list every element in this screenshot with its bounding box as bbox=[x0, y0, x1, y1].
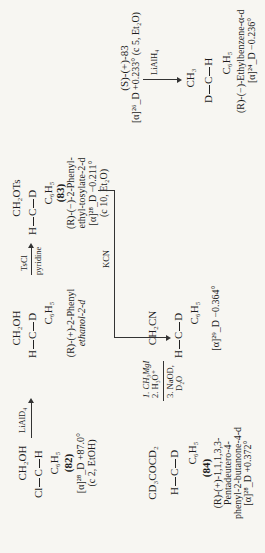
reagent-tscl: TsCl bbox=[20, 255, 29, 271]
c82-rotation: [α]²⁸_D +87.0° bbox=[75, 418, 86, 508]
nitrile-center-row: HCD bbox=[172, 313, 184, 358]
eb-bottom-group: C₆H₅ bbox=[220, 33, 232, 93]
eb-center: C bbox=[202, 77, 214, 84]
pe-center-row: HCD bbox=[26, 313, 38, 358]
nitrile-rotation: [α]²⁹_D −0.364° bbox=[210, 273, 221, 363]
c84-rotation: [α]²⁸_D +0.372° bbox=[242, 413, 253, 533]
c83-right: D bbox=[26, 190, 38, 198]
c84-number: (84) bbox=[200, 438, 212, 498]
s83-rotation: [α]²⁶_D +0.233° (c 5, Et₂O) bbox=[130, 12, 141, 123]
pe-name-1: (R)-(+)-2-Phenyl bbox=[65, 273, 76, 373]
reagent-lialh4: LiAlH₄ bbox=[150, 50, 159, 75]
c82-number: (82) bbox=[62, 433, 74, 493]
pe-top-group: CH₂OH bbox=[10, 298, 22, 358]
pe-center: C bbox=[26, 332, 38, 339]
c83-center-row: HCD bbox=[26, 190, 38, 235]
eb-left: D bbox=[202, 95, 214, 103]
c82-center-row: ClCH bbox=[32, 450, 44, 498]
reagent-step4: D₂O bbox=[175, 376, 184, 391]
c83-name-1: (R)-(−)-2-Phenyl- bbox=[65, 138, 76, 248]
eb-rotation: [α]²⁴_D −0.236° bbox=[246, 18, 257, 83]
nitrile-right: D bbox=[172, 313, 184, 321]
c82-top-group: CH₂OH bbox=[16, 433, 28, 493]
nitrile-top-group: CH₂CN bbox=[146, 298, 158, 358]
pe-bottom-group: C₆H₅ bbox=[42, 283, 54, 343]
reagent-kcn: KCN bbox=[102, 250, 111, 268]
c83-left: H bbox=[26, 227, 38, 235]
c84-top-group: CD₃COCD₂ bbox=[146, 433, 158, 513]
nitrile-bottom-group: C₆H₅ bbox=[188, 283, 200, 343]
c83-rotation: [α]²⁸_D −0.211° bbox=[87, 138, 98, 248]
pe-name-2: ethanol-2-d bbox=[76, 273, 87, 373]
pe-right: D bbox=[26, 313, 38, 321]
c82-conditions: (c 2, EtOH) bbox=[86, 418, 97, 508]
reaction-scheme: CH₂OH ClCH C₆H₅ (82) [α]²⁸_D +87.0° (c 2… bbox=[0, 0, 265, 553]
c84-center: C bbox=[168, 469, 180, 476]
c84-center-row: HCD bbox=[168, 450, 180, 495]
s83-label: (S)-(+)-83 bbox=[118, 23, 130, 113]
c83-name-2: ethyl-tosylate-2-d bbox=[76, 138, 87, 248]
reagent-pyridine: pyridine bbox=[34, 247, 43, 275]
reagent-step2: 2. H₃O⁺ bbox=[151, 370, 160, 398]
c84-left: H bbox=[168, 487, 180, 495]
c83-conditions: (c 10, Et₂O) bbox=[98, 138, 109, 248]
pe-left: H bbox=[26, 350, 38, 358]
c82-right: H bbox=[32, 450, 44, 458]
c83-top-group: CH₂OTs bbox=[10, 158, 22, 238]
c82-center: C bbox=[32, 469, 44, 476]
reagent-lialdd4: LiAlD₄ bbox=[18, 408, 27, 433]
eb-right: H bbox=[202, 58, 214, 66]
eb-center-row: DCH bbox=[202, 58, 214, 103]
c83-center: C bbox=[26, 209, 38, 216]
c84-bottom-group: C₆H₅ bbox=[186, 423, 198, 483]
nitrile-left: H bbox=[172, 350, 184, 358]
c82-left: Cl bbox=[32, 488, 44, 498]
c84-right: D bbox=[168, 450, 180, 458]
c82-bottom-group: C₆H₅ bbox=[48, 433, 60, 493]
eb-top-group: CH₃ bbox=[184, 48, 196, 108]
c83-bottom-group: C₆H₅ bbox=[42, 163, 54, 223]
eb-name: (R)-(−)-Ethylbenzene-α-d bbox=[235, 9, 246, 113]
nitrile-center: C bbox=[172, 332, 184, 339]
